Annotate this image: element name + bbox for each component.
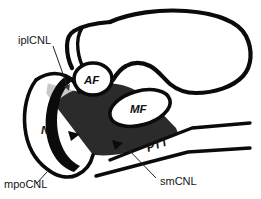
label-smcnl: smCNL [160, 175, 197, 187]
label-n: N [41, 124, 50, 136]
label-af: AF [83, 74, 100, 86]
label-mpocnl: mpoCNL [4, 178, 47, 190]
anatomy-line-drawing: iplCNL mpoCNL smCNL PTT AF MF N [0, 0, 261, 199]
anatomical-figure: iplCNL mpoCNL smCNL PTT AF MF N [0, 0, 261, 199]
label-iplcnl: iplCNL [18, 34, 51, 46]
label-mf: MF [130, 103, 148, 115]
